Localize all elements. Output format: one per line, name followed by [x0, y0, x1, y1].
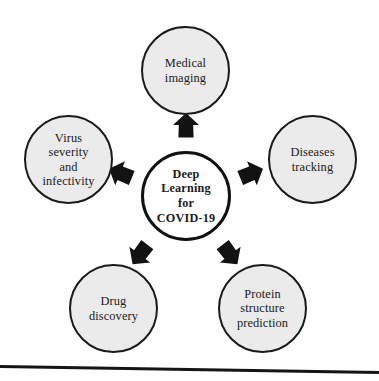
diagram-canvas: Medical imaging Diseases tracking Protei… — [0, 0, 379, 381]
node-protein-structure-prediction: Protein structure prediction — [218, 264, 307, 353]
node-virus-severity-and-infectivity: Virus severity and infectivity — [24, 115, 113, 204]
node-drug-discovery: Drug discovery — [69, 264, 158, 353]
arrow-to-diseases-tracking-icon — [230, 154, 269, 193]
node-medical-imaging-label: Medical imaging — [162, 56, 209, 84]
node-virus-severity-and-infectivity-label: Virus severity and infectivity — [39, 131, 97, 188]
node-drug-discovery-label: Drug discovery — [86, 294, 141, 322]
node-deep-learning-for-covid19-label: Deep Learning for COVID-19 — [154, 167, 218, 226]
arrow-to-medical-imaging-icon — [171, 112, 201, 142]
bottom-rule — [0, 365, 379, 374]
node-medical-imaging: Medical imaging — [141, 26, 230, 115]
node-deep-learning-for-covid19: Deep Learning for COVID-19 — [141, 151, 231, 241]
node-diseases-tracking-label: Diseases tracking — [287, 145, 337, 173]
node-protein-structure-prediction-label: Protein structure prediction — [234, 287, 291, 329]
node-diseases-tracking: Diseases tracking — [268, 115, 357, 204]
